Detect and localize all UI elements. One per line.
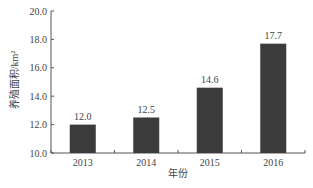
x-axis-title: 年份 <box>168 167 188 179</box>
y-tick-label: 18.0 <box>30 34 48 45</box>
bar-chart: 10.012.014.016.018.020.012.0201312.52014… <box>0 0 313 188</box>
bar-2013 <box>70 125 96 153</box>
y-tick-label: 12.0 <box>30 119 48 130</box>
y-tick-label: 10.0 <box>30 148 48 159</box>
bar-2016 <box>260 44 286 153</box>
bar-2015 <box>197 88 223 153</box>
bar-value-label: 12.0 <box>74 111 92 122</box>
y-tick-label: 20.0 <box>30 6 48 17</box>
x-tick-label: 2013 <box>73 157 93 168</box>
bar-2014 <box>133 118 159 154</box>
x-tick-label: 2015 <box>200 157 220 168</box>
y-tick-label: 14.0 <box>30 91 48 102</box>
y-axis-title: 养殖面积/km² <box>8 51 20 110</box>
y-tick-label: 16.0 <box>30 62 48 73</box>
bar-value-label: 12.5 <box>138 104 156 115</box>
x-tick-label: 2016 <box>263 157 283 168</box>
bar-value-label: 17.7 <box>265 30 283 41</box>
bar-value-label: 14.6 <box>201 74 219 85</box>
x-tick-label: 2014 <box>136 157 156 168</box>
